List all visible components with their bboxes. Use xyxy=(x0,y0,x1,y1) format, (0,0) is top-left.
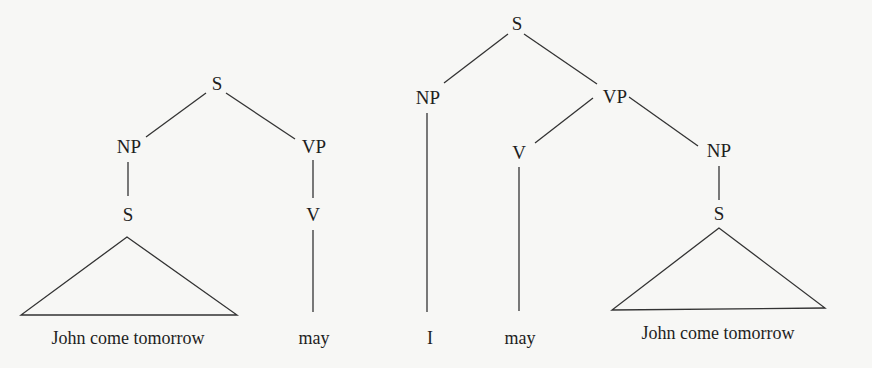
edge-vp-np xyxy=(629,97,698,146)
left-leaf-verb: may xyxy=(299,329,330,347)
right-vp-v: V xyxy=(512,143,526,162)
left-np: NP xyxy=(117,137,141,156)
edge-s-np xyxy=(146,93,206,137)
tree-edges xyxy=(0,0,872,368)
right-leaf-subject: I xyxy=(427,329,433,347)
right-vp-np-s: S xyxy=(714,204,725,223)
left-vp-v: V xyxy=(306,205,320,224)
left-leaf-subject-clause: John come tomorrow xyxy=(52,329,205,347)
right-leaf-verb: may xyxy=(505,329,536,347)
left-root-s: S xyxy=(212,74,223,93)
right-root-s: S xyxy=(512,14,523,33)
right-leaf-object-clause: John come tomorrow xyxy=(642,324,795,342)
right-vp: VP xyxy=(603,87,627,106)
left-np-s: S xyxy=(123,205,134,224)
left-vp: VP xyxy=(302,137,326,156)
right-triangle xyxy=(612,228,825,310)
left-triangle xyxy=(21,237,237,315)
right-vp-np: NP xyxy=(707,141,731,160)
edge-s-vp xyxy=(226,93,295,139)
right-tree-edges xyxy=(427,34,825,312)
left-tree-edges xyxy=(21,93,313,315)
edge-s-np xyxy=(444,34,508,83)
right-np: NP xyxy=(416,88,440,107)
edge-s-vp xyxy=(524,34,597,84)
edge-vp-v xyxy=(535,98,593,143)
